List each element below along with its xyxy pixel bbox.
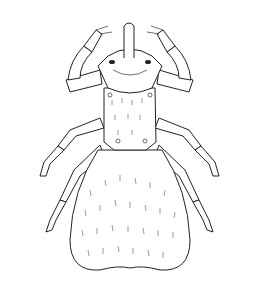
thorax: [104, 88, 156, 150]
rostrum: [124, 23, 134, 58]
insect-illustration: [0, 0, 259, 295]
eye-right: [145, 60, 151, 64]
abdomen: [70, 150, 190, 270]
eye-left: [109, 60, 115, 64]
